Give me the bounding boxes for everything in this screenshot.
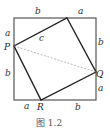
label-hypotenuse-c: c [39,33,44,43]
label-bottom-left-a: a [24,101,29,111]
point-label-r: R [36,102,44,112]
point-label-q: Q [96,69,104,79]
pythagorean-square-diagram: b a a b b a a b c P Q R 图 1.2 [0,0,110,133]
label-left-bottom-b: b [5,68,11,78]
label-left-top-a: a [5,28,10,38]
label-top-right-a: a [78,6,83,16]
figure-caption: 图 1.2 [36,118,62,128]
point-label-p: P [3,42,11,52]
label-bottom-right-b: b [75,102,81,112]
label-top-left-b: b [35,6,41,16]
label-right-top-b: b [98,37,104,47]
label-right-bottom-a: a [98,83,103,93]
